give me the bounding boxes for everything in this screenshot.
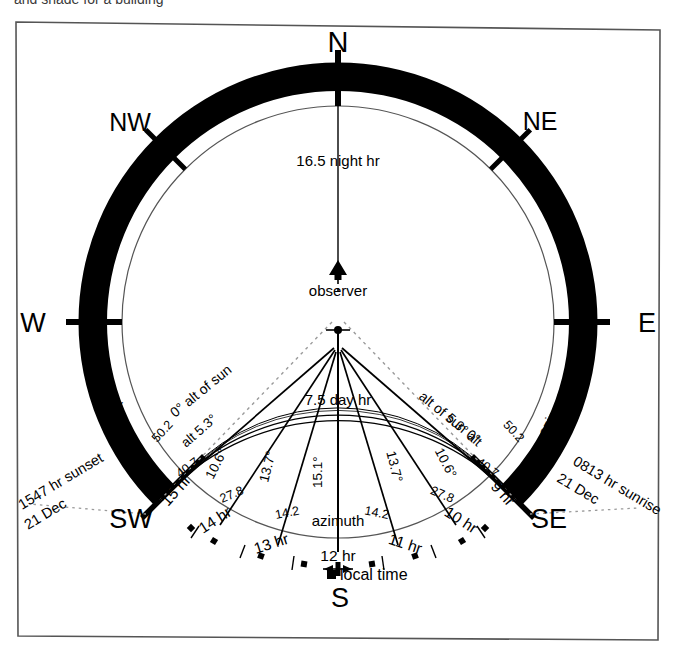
cardinal-label-N: N bbox=[328, 26, 349, 58]
local-time-marker-icon bbox=[327, 570, 336, 579]
cardinal-label-NW: NW bbox=[109, 108, 151, 136]
diagram-canvas: N NE E SE S SW W NW 16.5 night hr observ… bbox=[0, 0, 676, 647]
day-hours-label: 7.5 day hr bbox=[305, 391, 372, 408]
cardinal-label-SW: SW bbox=[109, 504, 153, 534]
local-time-legend: local time bbox=[327, 566, 408, 583]
cardinal-label-SE: SE bbox=[531, 504, 567, 534]
cardinal-label-NE: NE bbox=[523, 107, 558, 135]
sun-path-diagram-page: and shade for a building bbox=[0, 0, 676, 647]
cardinal-label-W: W bbox=[20, 308, 46, 338]
azimuth-scale-label: azimuth bbox=[312, 512, 365, 529]
az-tick-14w bbox=[301, 561, 308, 568]
cardinal-label-S: S bbox=[331, 583, 349, 613]
hour-label-12: 12 hr bbox=[320, 547, 355, 564]
alt-label-12hr: 15.1° bbox=[310, 456, 325, 488]
night-hours-label: 16.5 night hr bbox=[296, 152, 379, 169]
observer-label: observer bbox=[309, 282, 367, 299]
cardinal-label-E: E bbox=[638, 308, 656, 338]
local-time-label: local time bbox=[340, 566, 408, 583]
observer-dot bbox=[334, 326, 342, 334]
